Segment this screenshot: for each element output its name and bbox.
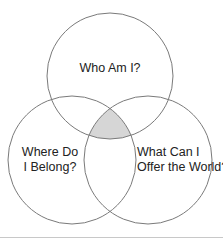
- label-where-do-line1: Where Do: [22, 145, 78, 159]
- bottom-divider: [0, 237, 223, 238]
- label-what-can-i-line2: Offer the World?: [137, 160, 223, 174]
- label-what-can-i-line1: What Can I: [137, 145, 200, 159]
- label-who-am-i: Who Am I?: [79, 61, 140, 75]
- label-where-do-line2: I Belong?: [24, 160, 77, 174]
- venn-diagram: Who Am I? Where Do I Belong? What Can I …: [0, 0, 223, 240]
